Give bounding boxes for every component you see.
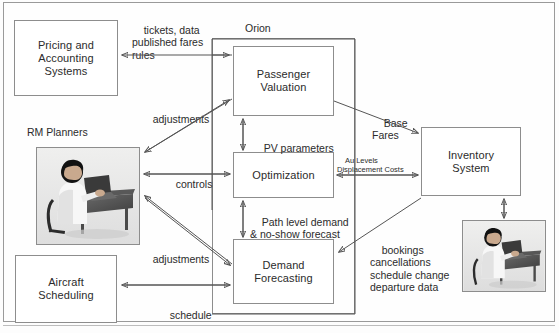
diagram-canvas: Orion Pricing and Accounting Systems RM … bbox=[0, 0, 559, 333]
orion-group-label: Orion bbox=[245, 22, 271, 34]
pricing-line-3: Systems bbox=[38, 65, 94, 78]
inventory-line-1: Inventory bbox=[448, 149, 494, 162]
edge-label-adjustments-bottom: adjustments bbox=[141, 240, 209, 278]
edge-label-au-levels: Au Levels Displacement Costs bbox=[337, 147, 404, 183]
edge-label-path-level-demand: Path level demand & no-show forecast bbox=[250, 203, 349, 253]
edge-label-tickets-data: tickets, data published fares rules bbox=[132, 11, 203, 74]
aircraft-scheduling-box[interactable]: Aircraft Scheduling bbox=[15, 255, 117, 323]
edge-label-schedule: schedule bbox=[158, 296, 212, 333]
edge-label-controls: controls bbox=[164, 165, 212, 203]
optimization-label: Optimization bbox=[252, 169, 314, 182]
inventory-system-box[interactable]: Inventory System bbox=[421, 127, 521, 196]
inventory-line-2: System bbox=[448, 162, 494, 175]
reservations-agent-photo bbox=[462, 220, 546, 292]
edge-label-pv-parameters-text: PV parameters bbox=[264, 142, 334, 154]
passenger-valuation-line-2: Valuation bbox=[257, 81, 311, 94]
edge-label-adjustments-top: adjustments bbox=[141, 100, 209, 138]
edge-label-controls-text: controls bbox=[176, 178, 213, 190]
edge-label-au-levels-text: Au Levels Displacement Costs bbox=[337, 156, 404, 174]
aircraft-line-2: Scheduling bbox=[38, 289, 93, 302]
edge-label-adjustments-top-text: adjustments bbox=[153, 113, 210, 125]
edge-label-path-level-demand-text: Path level demand & no-show forecast bbox=[250, 216, 349, 241]
pricing-line-1: Pricing and bbox=[38, 39, 94, 52]
edge-label-bookings-text: bookings cancellations schedule change d… bbox=[370, 244, 449, 294]
edge-label-schedule-text: schedule bbox=[170, 309, 212, 321]
pricing-and-accounting-systems-box[interactable]: Pricing and Accounting Systems bbox=[14, 20, 118, 96]
demand-forecasting-line-1: Demand bbox=[254, 259, 313, 272]
passenger-valuation-box[interactable]: Passenger Valuation bbox=[233, 46, 334, 116]
rm-planners-label: RM Planners bbox=[27, 126, 88, 139]
pricing-line-2: Accounting bbox=[38, 52, 94, 65]
edge-label-pv-parameters: PV parameters bbox=[252, 129, 334, 167]
rm-planners-photo bbox=[36, 147, 140, 245]
demand-forecasting-line-2: Forecasting bbox=[254, 272, 313, 285]
edge-label-adjustments-bottom-text: adjustments bbox=[153, 253, 210, 265]
page-bottom-rule bbox=[3, 325, 555, 326]
edge-label-tickets-text: tickets, data published fares rules bbox=[132, 24, 203, 61]
edge-label-bookings: bookings cancellations schedule change d… bbox=[370, 231, 449, 306]
person-at-desk-illustration bbox=[37, 148, 139, 244]
aircraft-line-1: Aircraft bbox=[38, 276, 93, 289]
passenger-valuation-line-1: Passenger bbox=[257, 68, 311, 81]
person-at-desk-illustration bbox=[463, 221, 545, 291]
edge-label-base-fares-text: Base Fares bbox=[372, 117, 408, 142]
